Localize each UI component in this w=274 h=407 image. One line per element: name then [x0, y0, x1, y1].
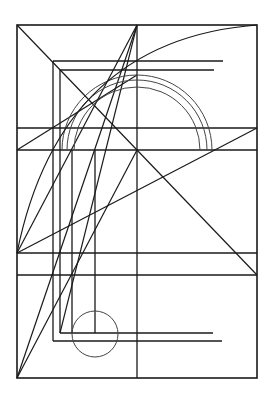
- vertical-lines: [53, 25, 137, 378]
- geometric-diagram: [0, 0, 274, 407]
- diagram-svg: [0, 0, 274, 407]
- diagonal-line: [17, 25, 137, 378]
